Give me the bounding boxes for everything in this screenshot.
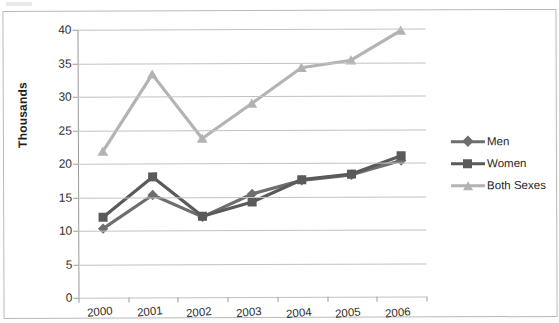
data-point-marker [347, 170, 356, 179]
gridline [79, 296, 427, 298]
legend-item-women[interactable]: Women [451, 152, 555, 174]
y-axis-tick [73, 164, 78, 165]
y-axis-title: Thousands [16, 82, 30, 148]
legend-key-icon [451, 157, 485, 169]
legend-label: Men [485, 135, 509, 147]
data-point-marker [248, 197, 257, 206]
series-line [103, 156, 402, 217]
legend-item-both-sexes[interactable]: Both Sexes [451, 174, 555, 196]
legend-marker [462, 136, 473, 147]
data-point-marker [297, 175, 306, 184]
x-axis-tick-label: 2001 [136, 305, 163, 319]
legend-item-men[interactable]: Men [451, 130, 555, 152]
data-point-marker [147, 69, 158, 78]
legend-label: Women [485, 157, 526, 169]
x-axis-tick [178, 297, 179, 302]
chart-page: Thousands 0510152025303540 2000200120022… [0, 0, 559, 323]
data-point-marker [397, 151, 406, 160]
x-axis-tick-label: 2005 [335, 305, 362, 319]
x-axis-tick-label: 2003 [236, 305, 263, 319]
x-axis-tick-label: 2004 [285, 305, 312, 319]
y-axis-tick-label: 35 [32, 57, 72, 69]
series-line [102, 31, 401, 152]
legend-key-icon [451, 179, 485, 191]
data-point-marker [99, 213, 108, 222]
x-axis-tick [79, 298, 80, 303]
data-point-marker [198, 212, 207, 221]
y-axis-tick [73, 231, 78, 232]
x-axis-tick [327, 297, 328, 302]
y-axis-tick-label: 25 [32, 124, 72, 136]
y-axis-tick-label: 40 [31, 24, 71, 36]
legend-marker [463, 181, 473, 190]
y-axis-tick [73, 197, 78, 198]
y-axis-tick-label: 15 [32, 191, 72, 203]
y-axis-tick [73, 97, 78, 98]
y-axis-tick-label: 5 [32, 258, 72, 270]
y-axis-tick [72, 30, 77, 31]
y-axis-tick-label: 10 [32, 225, 72, 237]
x-axis-tick-label: 2002 [186, 305, 213, 319]
x-axis-tick [228, 297, 229, 302]
legend-marker [463, 159, 472, 168]
y-axis-tick [73, 130, 78, 131]
x-axis-tick-label: 2000 [86, 304, 113, 318]
y-axis-tick [73, 63, 78, 64]
x-axis-tick [377, 297, 378, 302]
chart-legend: MenWomenBoth Sexes [451, 130, 555, 196]
x-axis-tick-label: 2006 [385, 306, 412, 320]
plot-area [77, 28, 426, 297]
x-axis-tick [128, 298, 129, 303]
chart-frame: Thousands 0510152025303540 2000200120022… [2, 9, 557, 319]
legend-label: Both Sexes [485, 179, 546, 191]
y-axis-tick-labels: 0510152025303540 [29, 30, 72, 298]
legend-key-icon [451, 135, 485, 147]
scan-artifact [0, 0, 559, 9]
x-axis-tick [427, 296, 428, 301]
x-axis-tick-labels: 2000200120022003200420052006 [79, 302, 439, 323]
y-axis-tick-label: 20 [32, 158, 72, 170]
y-axis-tick [73, 264, 78, 265]
data-point-marker [395, 26, 406, 35]
x-axis-tick [277, 297, 278, 302]
data-point-marker [148, 172, 157, 181]
y-axis-tick-label: 30 [32, 91, 72, 103]
y-axis-tick-label: 0 [32, 292, 72, 304]
